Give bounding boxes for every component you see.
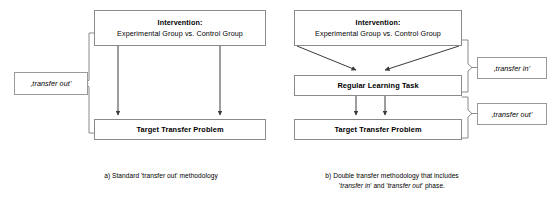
panel-b-transfer-out-bracket [462,97,477,138]
panel-b-node-intervention: Intervention: Experimental Group vs. Con… [294,10,462,46]
panel-a-node-target-transfer-problem: Target Transfer Problem [94,119,266,140]
panel-a-node-intervention: Intervention: Experimental Group vs. Con… [94,10,266,46]
panel-b-target-title: Target Transfer Problem [334,125,421,134]
panel-a-caption-line-1: a) Standard 'transfer out' methodology [46,171,276,181]
panel-b-caption-line-2: 'transfer in' and 'transfer out' phase. [292,181,492,191]
panel-a-intervention-subtitle: Experimental Group vs. Control Group [117,29,243,38]
panel-b-node-regular-learning-task: Regular Learning Task [294,75,462,96]
panel-b-intervention-subtitle: Experimental Group vs. Control Group [315,29,441,38]
panel-b-arrow-intervention-to-regular-right [385,46,459,70]
panel-b-tag-transfer-in-label: ‚transfer in' [494,64,530,73]
panel-b-transfer-in-bracket [462,40,477,92]
panel-b-caption-line-1: b) Double transfer methodology that incl… [292,171,492,181]
panel-a-intervention-title: Intervention: [158,18,203,27]
panel-b-tag-transfer-out: ‚transfer out' [477,103,547,125]
panel-a-caption: a) Standard 'transfer out' methodology [46,171,276,181]
panel-b-caption: b) Double transfer methodology that incl… [292,171,492,190]
panel-a-tag-transfer-out-label: ‚transfer out' [31,79,72,88]
figure-container: Intervention: Experimental Group vs. Con… [0,0,556,203]
panel-b-tag-transfer-out-label: ‚transfer out' [492,110,533,119]
panel-b-node-target-transfer-problem: Target Transfer Problem [294,119,462,140]
panel-b-intervention-title: Intervention: [356,18,401,27]
panel-b-regular-title: Regular Learning Task [337,81,418,90]
panel-b-arrow-intervention-to-regular-left [297,46,356,70]
panel-b-tag-transfer-in: ‚transfer in' [477,57,547,79]
panel-a-target-title: Target Transfer Problem [136,125,223,134]
panel-a-tag-transfer-out: ‚transfer out' [14,72,88,95]
